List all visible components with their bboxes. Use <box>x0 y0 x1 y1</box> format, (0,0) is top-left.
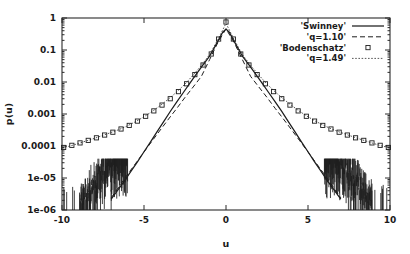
legend-label: 'Bodenschatz' <box>280 43 346 53</box>
y-tick-label: 1e-06 <box>27 205 56 215</box>
x-tick-label: -5 <box>139 215 149 225</box>
y-tick-label: 1e-05 <box>27 173 56 183</box>
pdf-log-plot: 10.10.010.0010.00011e-051e-06-10-50510 '… <box>0 0 410 254</box>
x-axis-title: u <box>223 238 230 249</box>
legend-label: 'Swinney' <box>300 21 346 31</box>
y-tick-label: 0.001 <box>28 109 56 119</box>
x-tick-label: -10 <box>54 215 70 225</box>
x-tick-label: 5 <box>305 215 311 225</box>
legend-label: 'q=1.10' <box>307 32 346 42</box>
x-tick-label: 0 <box>223 215 229 225</box>
y-tick-label: 1 <box>50 13 56 23</box>
legend-label: 'q=1.49' <box>307 53 346 63</box>
y-tick-label: 0.0001 <box>21 141 56 151</box>
y-tick-label: 0.1 <box>40 45 56 55</box>
y-axis-title: p(u) <box>3 103 14 125</box>
x-tick-label: 10 <box>384 215 397 225</box>
chart-figure: 10.10.010.0010.00011e-051e-06-10-50510 '… <box>0 0 410 254</box>
y-tick-label: 0.01 <box>34 77 56 87</box>
